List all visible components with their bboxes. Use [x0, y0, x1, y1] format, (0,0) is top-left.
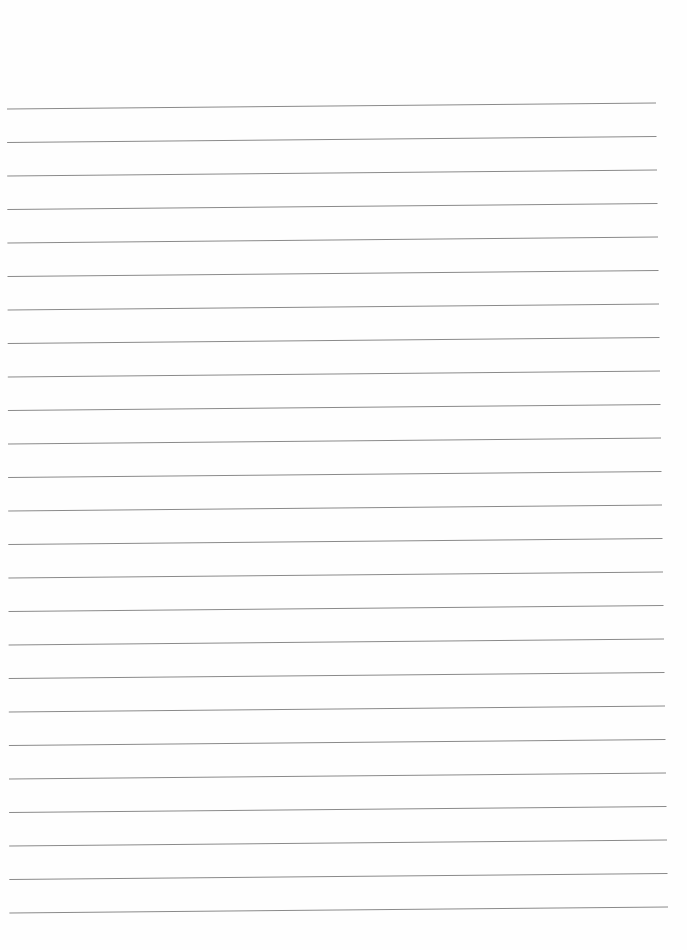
ruled-line — [8, 438, 661, 444]
ruled-line — [8, 505, 662, 511]
ruled-line — [7, 237, 658, 243]
lined-paper-sheet — [0, 0, 687, 950]
ruled-line — [7, 137, 656, 143]
ruled-line — [8, 371, 660, 377]
ruled-line — [7, 103, 656, 109]
ruled-line — [9, 673, 665, 679]
ruled-line — [9, 639, 664, 645]
ruled-line — [8, 304, 659, 310]
ruled-line — [7, 170, 657, 176]
ruled-line — [9, 807, 666, 813]
ruled-line — [9, 840, 667, 846]
ruled-line — [7, 204, 657, 210]
ruled-line — [9, 907, 668, 913]
ruled-line — [9, 740, 666, 746]
ruled-line — [8, 472, 661, 478]
ruled-line — [8, 405, 661, 411]
ruled-line — [8, 271, 659, 277]
ruled-line — [9, 874, 667, 880]
ruled-lines — [0, 0, 687, 950]
ruled-line — [9, 706, 665, 712]
ruled-line — [8, 572, 663, 578]
ruled-line — [8, 338, 660, 344]
ruled-line — [8, 539, 662, 545]
ruled-line — [9, 606, 664, 612]
ruled-line — [9, 773, 666, 779]
